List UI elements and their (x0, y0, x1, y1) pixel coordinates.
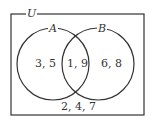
set-a-label: A (48, 23, 58, 34)
set-a-only-elements: 3, 5 (35, 57, 56, 70)
universe-label: U (26, 8, 37, 19)
set-b-label: B (97, 23, 107, 34)
universe-only-elements: 2, 4, 7 (61, 100, 96, 113)
set-b-only-elements: 6, 8 (101, 57, 122, 70)
intersection-elements: 1, 9 (67, 57, 88, 70)
